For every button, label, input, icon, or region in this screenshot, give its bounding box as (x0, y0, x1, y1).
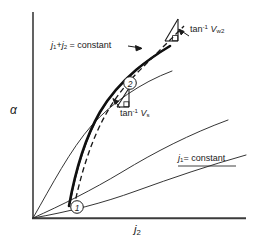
sum-label-leader (128, 46, 142, 51)
operating-curve-solid (69, 46, 170, 206)
annotation-j1-constant: j1= constant (178, 154, 225, 163)
vw2-leader-arrowhead (179, 29, 185, 35)
sum-j2-sub: 2 (64, 43, 67, 50)
x-axis-label-sub: 2 (137, 228, 141, 237)
curve-j1-lower (33, 155, 246, 218)
operating-curve-solid-overlay (70, 46, 170, 203)
sum-equals-constant: = constant (70, 40, 112, 50)
vs-exponent: -1 (133, 107, 138, 114)
annotation-sum-constant: j1+j2 = constant (51, 41, 111, 50)
j1-constant-curve-family (33, 71, 246, 218)
vs-tan-base: tan (120, 108, 133, 118)
annotation-tan-inverse-vs: tan-1 Vs (120, 108, 150, 118)
sum-leader-arrowhead (136, 46, 143, 51)
node-1-label: 1 (71, 203, 83, 213)
node-2-label: 2 (124, 79, 136, 89)
annotation-tan-inverse-vw2: tan-1 Vw2 (190, 24, 224, 34)
y-axis-label: α (10, 104, 17, 116)
diagram-canvas (0, 0, 255, 248)
vw2-exponent: -1 (203, 23, 208, 30)
figure-container: α j2 j1+j2 = constant tan-1 Vw2 tan-1 Vs… (0, 0, 255, 248)
vw2-right-angle-mark (173, 36, 178, 41)
x-axis-label: j2 (134, 224, 141, 237)
vs-symbol-sub: s (146, 111, 149, 118)
j1-equals-constant: = constant (183, 153, 225, 163)
vw2-tan-base: tan (190, 24, 203, 34)
vw2-symbol-sub: w2 (216, 27, 224, 34)
vs-right-angle-mark (124, 102, 129, 107)
node-markers-group (71, 77, 137, 214)
slope-triangle-vs (117, 88, 129, 107)
vs-hypotenuse (117, 88, 129, 107)
curve-j1-upper (33, 71, 172, 218)
vw2-label-leader (179, 29, 189, 36)
operating-curve-group (69, 46, 170, 206)
